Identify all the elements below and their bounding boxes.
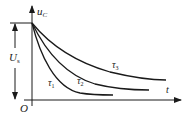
curve-label-tau1: τ1 (48, 77, 55, 89)
us-label: Us (9, 51, 20, 65)
rc-discharge-diagram: uC Us O t τ1 τ2 τ3 (0, 0, 193, 122)
y-axis-label: uC (37, 5, 48, 19)
curve-label-tau2: τ2 (77, 75, 84, 87)
origin-label: O (20, 102, 28, 114)
x-axis-label: t (166, 84, 169, 95)
curve-tau1 (32, 23, 113, 95)
curve-label-tau3: τ3 (112, 59, 119, 71)
